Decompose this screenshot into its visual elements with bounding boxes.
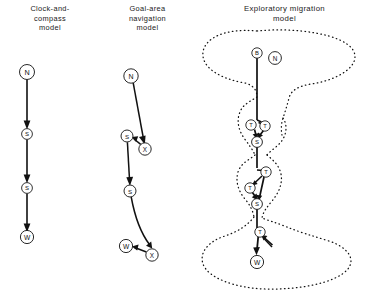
node-label-n: N [24,68,29,77]
edge-s2-to-x2 [131,197,149,245]
node-label-b: B [255,50,259,56]
node-label-x1: X [143,146,148,153]
node-label-t1: T [249,122,253,128]
diagram-goal-area-navigation: N S X S W X [100,0,195,297]
node-label-t3: T [264,169,268,175]
node-label-s2: S [128,188,132,195]
node-label-n: N [128,73,133,80]
region-top-exploratory-area [203,30,355,135]
panel-exploratory-migration: Exploratory migration model [195,0,374,297]
diagram-exploratory-migration: B N T T S T T S T W [195,0,374,297]
edge-n-to-x1 [133,83,143,140]
arrowhead-s2-to-x2 [146,242,152,249]
node-label-x2: X [150,252,155,259]
node-label-s2: S [255,201,259,207]
arrowhead-s1-to-s2 [24,174,31,183]
arrowhead-n-to-s1 [24,121,31,130]
arrowhead-t5-to-w [253,247,260,255]
node-label-w: W [24,234,31,241]
edge-t3-to-s2 [260,177,265,198]
diagram-clock-and-compass: N S S W [0,0,100,297]
node-label-s2: S [25,185,29,191]
node-label-w: W [254,259,261,266]
edge-s1-to-s2 [127,142,129,181]
node-label-s1: S [25,131,29,137]
edge-axis-to-t2 [257,120,262,122]
node-label-w: W [123,243,130,250]
node-label-s1: S [255,139,259,145]
node-label-s1: S [125,133,129,140]
panel-goal-area-navigation: Goal-area navigation model N S X [100,0,195,297]
panel-clock-and-compass: Clock-and- compass model N S S W [0,0,100,297]
node-label-t4: T [248,185,252,191]
node-label-t2: T [263,123,267,129]
node-label-n: N [273,55,278,62]
figure-root: Clock-and- compass model N S S W Goal-ar… [0,0,374,297]
node-label-t5: T [258,229,262,235]
region-bottom-exploratory-area [202,217,351,289]
